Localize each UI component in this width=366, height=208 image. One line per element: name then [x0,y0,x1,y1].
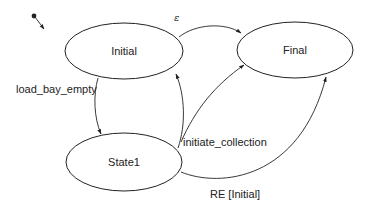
state-final-label: Final [283,45,307,56]
state-state1-label: State1 [108,157,140,168]
start-marker [32,14,44,29]
edge-initiate-collection-label: initiate_collection [183,137,267,148]
edge-load-bay-empty-label: load_bay_empty [16,84,97,95]
edge-re-initial[interactable] [181,77,326,178]
edge-epsilon-label: ε [174,13,179,23]
state-diagram-canvas [0,0,366,208]
start-edge [35,17,44,29]
edge-initiate-collection[interactable] [181,65,244,142]
edge-re-initial-label: RE [Initial] [210,189,260,200]
state-initial-label: Initial [111,46,137,57]
edge-epsilon[interactable] [179,26,241,37]
